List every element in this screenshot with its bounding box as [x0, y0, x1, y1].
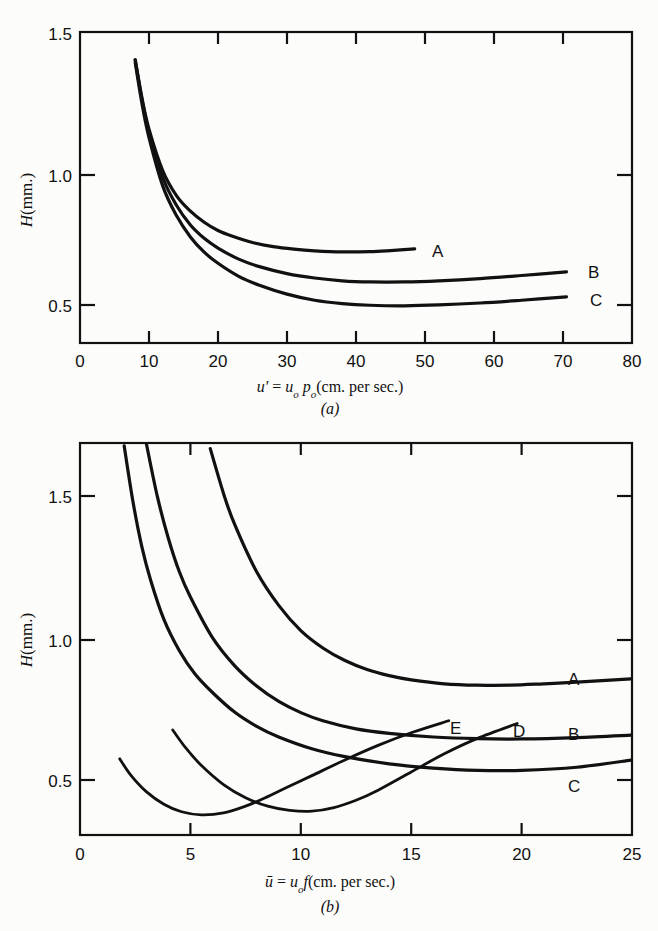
panel-a-y-ticklabels: 1.5 1.0 0.5 — [48, 25, 72, 316]
panel-b-xticklabel-1: 5 — [186, 845, 195, 864]
panel-a-yticklabel-0: 0.5 — [48, 297, 72, 316]
panel-b-xticklabel-2: 10 — [291, 845, 310, 864]
panel-b-yticklabel-2: 1.5 — [48, 488, 72, 507]
curve-label-b-C: C — [568, 777, 580, 796]
panel-a-yticklabel-2: 1.5 — [48, 25, 72, 44]
curve-label-b-E: E — [450, 719, 461, 738]
panel-a-yticklabel-1: 1.0 — [48, 167, 72, 186]
panel-b-xticklabel-4: 20 — [512, 845, 531, 864]
svg-text:H(mm.): H(mm.) — [17, 173, 36, 228]
panel-a: H(mm.) 1.5 1.0 0.5 — [0, 0, 658, 420]
panel-b-axes-frame — [80, 443, 632, 835]
figure-container: H(mm.) 1.5 1.0 0.5 — [0, 0, 658, 931]
panel-a-xticklabel-7: 70 — [554, 352, 573, 371]
panel-b-y-ticklabels: 1.5 1.0 0.5 — [48, 488, 72, 791]
panel-b-xticklabel-3: 15 — [402, 845, 421, 864]
panel-a-x-axis-var1: u — [285, 378, 293, 395]
panel-a-xticklabel-8: 80 — [623, 352, 642, 371]
curve-b-A — [210, 449, 632, 686]
curve-label-a-A: A — [432, 242, 444, 261]
panel-a-x-axis-var2: p — [299, 378, 311, 396]
curve-a-A — [135, 60, 414, 252]
panel-a-xticklabel-4: 40 — [347, 352, 366, 371]
panel-a-xticklabel-2: 20 — [209, 352, 228, 371]
panel-a-x-axis-title: u′ = uo po(cm. per sec.) — [257, 378, 404, 400]
panel-a-x-ticklabels: 0 10 20 30 40 50 60 70 80 — [75, 352, 641, 371]
panel-b-caption: (b) — [321, 898, 340, 916]
panel-a-caption: (a) — [321, 400, 340, 418]
panel-b-plot: H(mm.) 1.5 1.0 0.5 — [0, 420, 658, 931]
panel-a-x-axis-eq: = — [268, 378, 285, 395]
panel-a-y-axis-unit: (mm.) — [17, 173, 36, 215]
curve-label-b-A: A — [568, 670, 580, 689]
panel-b-x-axis-title: ū = uof(cm. per sec.) — [265, 873, 395, 895]
panel-a-xticklabel-0: 0 — [75, 352, 84, 371]
panel-b-yticklabel-0: 0.5 — [48, 772, 72, 791]
panel-b-x-ticks — [190, 443, 521, 835]
panel-b-xticklabel-0: 0 — [75, 845, 84, 864]
panel-a-xticklabel-6: 60 — [485, 352, 504, 371]
panel-a-y-axis-title: H(mm.) — [17, 173, 36, 228]
svg-text:H(mm.): H(mm.) — [17, 613, 36, 668]
panel-a-curves — [135, 60, 566, 306]
curve-label-b-D: D — [513, 722, 525, 741]
panel-b-curve-labels: A B C D E — [450, 670, 580, 796]
panel-a-y-ticks — [80, 175, 632, 305]
panel-a-xticklabel-5: 50 — [416, 352, 435, 371]
panel-b-y-axis-title: H(mm.) — [17, 613, 36, 668]
panel-b-x-ticklabels: 0 5 10 15 20 25 — [75, 845, 641, 864]
curve-label-a-B: B — [588, 263, 599, 282]
panel-b-yticklabel-1: 1.0 — [48, 632, 72, 651]
curve-b-D — [173, 724, 517, 812]
panel-a-xticklabel-3: 30 — [278, 352, 297, 371]
curve-a-C — [135, 63, 566, 306]
curve-b-C — [124, 446, 632, 771]
panel-b-x-axis-sym: ū — [265, 873, 273, 890]
panel-a-xticklabel-1: 10 — [140, 352, 159, 371]
panel-b-y-axis-unit: (mm.) — [17, 613, 36, 655]
panel-b: H(mm.) 1.5 1.0 0.5 — [0, 420, 658, 931]
panel-b-curves — [120, 443, 632, 815]
panel-b-x-axis-eq: = — [273, 873, 290, 890]
panel-a-x-ticks — [149, 32, 563, 343]
curve-b-B — [146, 443, 632, 739]
panel-b-x-axis-unit: (cm. per sec.) — [308, 873, 395, 891]
panel-b-xticklabel-5: 25 — [623, 845, 642, 864]
panel-a-x-axis-unit: (cm. per sec.) — [316, 378, 403, 396]
panel-a-x-axis-sym: u′ — [257, 378, 269, 395]
curve-label-a-C: C — [590, 291, 602, 310]
curve-label-b-B: B — [568, 725, 579, 744]
panel-a-plot: H(mm.) 1.5 1.0 0.5 — [0, 0, 658, 420]
panel-b-x-axis-var1: u — [290, 873, 298, 890]
